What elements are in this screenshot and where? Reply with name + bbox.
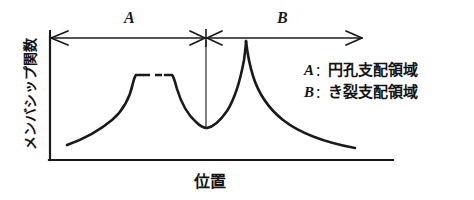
curve-decay-tail (246, 41, 355, 148)
figure-container: A B A ： 円孔支配領域 B ： き裂支配領域 メンバシップ関数 位置 (0, 0, 474, 200)
membership-curve-group (67, 41, 355, 148)
curve-right-falling-branch (165, 75, 207, 128)
curve-peak-rising-branch (207, 41, 246, 128)
curve-left-rising-branch (67, 75, 143, 145)
figure-drawing (0, 0, 474, 200)
axes-group (49, 36, 393, 160)
